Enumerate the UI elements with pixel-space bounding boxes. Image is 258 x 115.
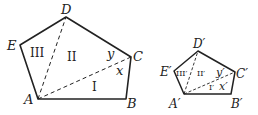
region-label-i-prime: I′ bbox=[209, 83, 214, 92]
angle-label-y: y bbox=[106, 46, 115, 61]
pentagon-small: A′ B′ C′ D′ E′ III′ II′ I′ y′ x′ bbox=[159, 37, 248, 111]
region-label-iii-prime: III′ bbox=[176, 69, 187, 78]
vertex-label-b-prime: B′ bbox=[230, 97, 243, 111]
vertex-label-c: C bbox=[133, 49, 143, 64]
vertex-label-e-prime: E′ bbox=[159, 65, 172, 79]
region-label-iii: III bbox=[30, 46, 44, 60]
region-label-ii: II bbox=[67, 50, 77, 64]
region-label-i: I bbox=[92, 80, 97, 94]
angle-label-x: x bbox=[116, 63, 124, 78]
angle-label-y-prime: y′ bbox=[215, 66, 225, 79]
vertex-label-d: D bbox=[60, 2, 72, 17]
vertex-label-b: B bbox=[126, 96, 137, 111]
similar-pentagons-diagram: A B C D E III II I y x A′ B′ C′ D′ E′ II… bbox=[0, 0, 258, 115]
diagram-canvas: A B C D E III II I y x A′ B′ C′ D′ E′ II… bbox=[0, 0, 258, 115]
vertex-label-a: A bbox=[23, 92, 33, 107]
vertex-label-e: E bbox=[6, 38, 17, 53]
vertex-label-c-prime: C′ bbox=[236, 67, 248, 81]
region-label-ii-prime: II′ bbox=[197, 69, 205, 78]
pentagon-large: A B C D E III II I y x bbox=[6, 2, 143, 111]
vertex-label-d-prime: D′ bbox=[192, 37, 206, 51]
angle-label-x-prime: x′ bbox=[219, 80, 228, 93]
vertex-label-a-prime: A′ bbox=[168, 97, 181, 111]
